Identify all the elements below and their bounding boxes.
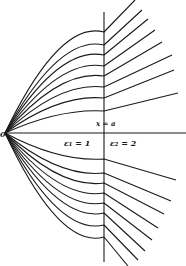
field-line-lower-6 — [5, 133, 145, 251]
field-line-upper-2 — [5, 10, 142, 133]
axes — [5, 12, 186, 262]
interface-label: x = a — [95, 119, 116, 128]
field-line-upper-8 — [5, 93, 178, 133]
origin-label: 0 — [0, 129, 6, 139]
region2-permittivity-label: ε₂ = 2 — [110, 138, 137, 148]
field-lines-diagram: 0 x = a ε₁ = 1 ε₂ = 2 — [0, 0, 186, 266]
field-line-upper-4 — [5, 30, 155, 133]
region1-permittivity-label: ε₁ = 1 — [64, 138, 90, 148]
field-line-lower-8 — [5, 133, 128, 266]
field-line-upper-6 — [5, 55, 172, 133]
